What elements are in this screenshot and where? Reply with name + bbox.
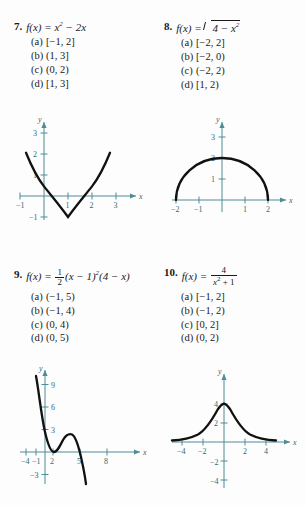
y-tick-label: 3: [211, 133, 215, 142]
problem-8: 8. f(x) = 4 − x2 (a)[−2, 2] (b)[−2, 0) (…: [164, 20, 299, 92]
problem-8-statement: 8. f(x) = 4 − x2: [164, 20, 299, 34]
x-tick-label: −1: [16, 201, 25, 210]
x-tick-label: 2: [243, 447, 247, 456]
choice-value: (−1, 2): [196, 305, 225, 316]
choice-item[interactable]: (b)[−2, 0): [181, 50, 299, 64]
problem-8-graph: x y −2 −1 1 2 1 2 3: [164, 108, 299, 226]
problem-10-number: 10.: [164, 266, 178, 279]
choice-item[interactable]: (b)(−1, 2): [181, 304, 299, 318]
problem-7-graph: x y −1 1 2 3 1 2 3 −1: [14, 108, 149, 226]
problem-10-graph: x y −4 −2 2 4 2 4 −2 −4: [164, 362, 304, 500]
choice-value: (−2, 2): [196, 65, 225, 76]
choice-value: [−2, 2]: [196, 37, 225, 48]
y-tick-label: 2: [214, 419, 218, 428]
choice-label: (c): [181, 64, 196, 78]
problem-10-equation: f(x) = 4 x2 + 1: [182, 266, 238, 288]
choice-value: (0, 2): [46, 64, 69, 75]
x-axis-label: x: [138, 192, 143, 201]
choice-label: (d): [31, 331, 46, 345]
radicand: 4 − x2: [211, 20, 240, 34]
fraction-numerator: 4: [211, 266, 237, 275]
equals-sign: =: [200, 270, 207, 282]
x-tick-label: −4: [21, 457, 30, 466]
choice-item[interactable]: (c)(−2, 2): [181, 64, 299, 78]
x-axis-label: x: [288, 196, 293, 205]
curve-cubic: [36, 376, 86, 484]
fraction-rational: 4 x2 + 1: [211, 266, 237, 288]
choice-item[interactable]: (d)[1, 3]: [31, 77, 144, 91]
x-tick-label: 3: [114, 201, 118, 210]
problem-9-equation: f(x) = 1 2 (x − 1)2(4 − x): [26, 268, 130, 288]
x-tick-label: 8: [104, 457, 108, 466]
choice-item[interactable]: (c)(0, 4): [31, 318, 154, 332]
x-tick-label: −4: [177, 447, 186, 456]
textbook-exercise-page: 7. f(x) = x2 − 2x (a)[−1, 2] (b)(1, 3] (…: [0, 0, 305, 505]
choice-value: [0, 2]: [196, 319, 219, 330]
problem-9-graph: x y −4 −1 2 5 8 3 6 9 −3: [14, 362, 154, 500]
problem-7-equation: f(x) = x2 − 2x: [26, 20, 86, 33]
y-tick-label: 3: [33, 129, 37, 138]
problem-9: 9. f(x) = 1 2 (x − 1)2(4 − x) (a)(−1, 5)…: [14, 268, 154, 345]
x-tick-label: 1: [66, 201, 70, 210]
problem-10: 10. f(x) = 4 x2 + 1 (a)[−1, 2] (b)(−1, 2…: [164, 266, 299, 345]
choice-item[interactable]: (a)[−1, 2]: [181, 290, 299, 304]
choice-item[interactable]: (c)(0, 2): [31, 63, 144, 77]
choice-item[interactable]: (a)(−1, 5): [31, 290, 154, 304]
x-tick-label: −1: [32, 457, 41, 466]
choice-label: (b): [181, 50, 196, 64]
x-tick-label: 1: [243, 205, 247, 214]
problem-7-choices: (a)[−1, 2] (b)(1, 3] (c)(0, 2) (d)[1, 3]: [31, 35, 144, 90]
y-tick-label: −1: [29, 213, 38, 222]
choice-value: [1, 3]: [46, 78, 69, 89]
problem-8-choices: (a)[−2, 2] (b)[−2, 0) (c)(−2, 2) (d)[1, …: [181, 36, 299, 91]
choice-value: [−2, 0): [196, 51, 225, 62]
choice-item[interactable]: (a)[−2, 2]: [181, 36, 299, 50]
choice-label: (c): [31, 63, 46, 77]
function-notation: f(x): [182, 270, 197, 282]
function-notation: f(x): [26, 21, 41, 33]
x-axis-label: x: [142, 448, 147, 457]
choice-label: (b): [181, 304, 196, 318]
choice-item[interactable]: (d)[1, 2): [181, 78, 299, 92]
choice-label: (b): [31, 304, 46, 318]
fraction-one-half: 1 2: [55, 268, 64, 288]
square-root-icon: 4 − x2: [204, 20, 240, 34]
choice-item[interactable]: (b)(1, 3]: [31, 49, 144, 63]
choice-label: (a): [31, 290, 46, 304]
choice-label: (d): [181, 331, 196, 345]
problem-7: 7. f(x) = x2 − 2x (a)[−1, 2] (b)(1, 3] (…: [14, 20, 144, 91]
choice-label: (a): [181, 36, 196, 50]
choice-item[interactable]: (d)(0, 2): [181, 331, 299, 345]
choice-item[interactable]: (b)(−1, 4): [31, 304, 154, 318]
choice-value: (0, 2): [196, 332, 219, 343]
x-tick-label: 2: [266, 205, 270, 214]
choice-label: (b): [31, 49, 46, 63]
y-axis-label: y: [38, 364, 43, 373]
choice-label: (d): [31, 77, 46, 91]
choice-label: (a): [181, 290, 196, 304]
y-tick-label: 4: [214, 400, 218, 409]
problem-10-choices: (a)[−1, 2] (b)(−1, 2) (c)[0, 2] (d)(0, 2…: [181, 290, 299, 345]
y-tick-label: 2: [33, 150, 37, 159]
y-axis-label: y: [215, 115, 220, 124]
x-axis-label: x: [292, 438, 297, 447]
x-tick-label: 4: [264, 447, 268, 456]
choice-value: [1, 2): [196, 79, 219, 90]
y-tick-label: −2: [210, 458, 219, 467]
y-tick-label: 6: [51, 403, 55, 412]
choice-value: (0, 4): [46, 319, 69, 330]
problem-9-number: 9.: [14, 268, 22, 281]
problem-9-choices: (a)(−1, 5) (b)(−1, 4) (c)(0, 4) (d)(0, 5…: [31, 290, 154, 345]
choice-item[interactable]: (d)(0, 5): [31, 331, 154, 345]
expression-9-tail: (x − 1)2(4 − x): [65, 270, 130, 282]
choice-value: [−1, 2]: [196, 291, 225, 302]
choice-item[interactable]: (a)[−1, 2]: [31, 35, 144, 49]
fraction-denominator: x2 + 1: [211, 275, 237, 288]
choice-item[interactable]: (c)[0, 2]: [181, 318, 299, 332]
choice-value: (0, 5): [46, 332, 69, 343]
y-axis-label: y: [217, 367, 222, 376]
y-tick-label: 9: [51, 381, 55, 390]
y-tick-label: −4: [210, 477, 219, 486]
choice-value: [−1, 2]: [46, 36, 75, 47]
function-notation: f(x): [26, 270, 41, 282]
